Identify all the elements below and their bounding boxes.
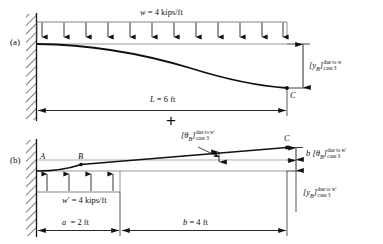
node-b (79, 163, 83, 167)
moment-arm-bracket: [θB] (312, 148, 326, 158)
slope-case: due to w'case 3 (196, 130, 215, 142)
deflection-bracket-a: [yB] (309, 60, 323, 70)
slope-sub: case 3 (196, 136, 215, 142)
distributed-load-a (37, 22, 287, 40)
cantilever-superposition-figure (0, 0, 383, 244)
deflection-sub-b: case 3 (318, 193, 337, 199)
deflection-bracket-b: [yB] (303, 187, 317, 197)
deflected-beam-curve-a (37, 44, 287, 88)
moment-arm-prefix: b (306, 148, 310, 158)
panel-b-dim-a-label: a = 2 ft (62, 218, 89, 227)
panel-b-point-b: B (78, 152, 83, 161)
distributed-load-b (37, 171, 120, 192)
panel-a-tag: (a) (10, 38, 20, 47)
deflected-segment-ab (37, 165, 81, 172)
panel-b-load-label: w′ = 4 kips/ft (62, 196, 107, 205)
panel-b-slope-callout: [θB]due to w'case 3 (181, 130, 215, 142)
moment-arm-dimension (287, 148, 303, 161)
dim-symbol-b: b (183, 217, 187, 227)
panel-b-point-c: C (284, 134, 290, 143)
dim-symbol-a: a (62, 217, 66, 227)
panel-b-point-a: A (40, 152, 45, 161)
deflection-dimension-a (287, 44, 310, 88)
slope-bracket: [θB] (181, 130, 195, 140)
panel-b-deflection-label: [yB]due to w'case 3 (303, 187, 336, 199)
deflection-dimension-b (287, 161, 303, 213)
moment-arm-sub: case 3 (327, 154, 346, 160)
load-value-a: = 4 kips/ft (146, 7, 183, 17)
span-symbol-L: L (150, 94, 155, 104)
panel-a-point-c: C (290, 91, 296, 100)
panel-a-group (26, 13, 310, 121)
deflection-case-a: due to wcase 3 (324, 60, 342, 72)
deflection-case-b: due to w'case 3 (318, 187, 337, 199)
panel-b-tag: (b) (10, 156, 21, 165)
panel-a-span-label: L = 6 ft (150, 95, 175, 104)
fixed-support-wall-a (26, 13, 37, 121)
panel-b-moment-arm-label: b [θB]due to w'case 3 (306, 148, 346, 160)
deflected-segment-bc (81, 148, 287, 165)
deflection-sub-a: case 3 (324, 66, 342, 72)
panel-b-dim-b-label: b = 4 ft (183, 218, 208, 227)
panel-a-deflection-label: [yB]due to wcase 3 (309, 60, 341, 72)
panel-a-load-label: w = 4 kips/ft (140, 8, 183, 17)
superposition-plus-operator: + (166, 112, 176, 129)
fixed-support-wall-b (26, 139, 37, 237)
moment-arm-case: due to w'case 3 (327, 148, 346, 160)
